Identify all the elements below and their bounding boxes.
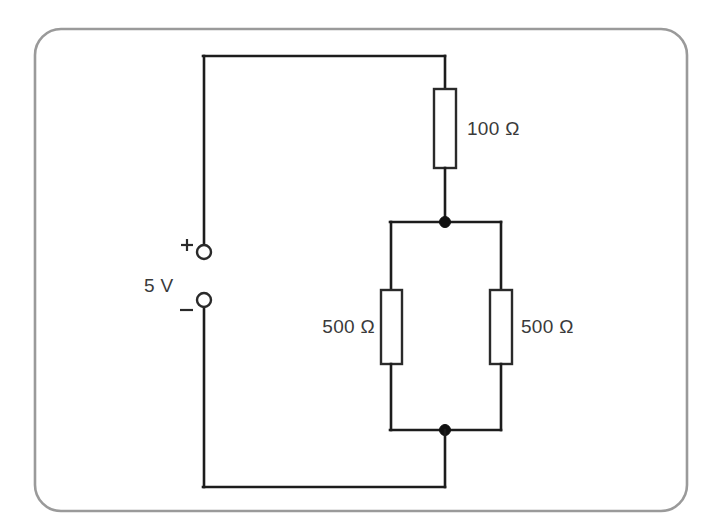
- polarity-plus-icon: [181, 239, 193, 251]
- junction-node-top: [440, 217, 451, 228]
- voltage-source-value-label: 5 V: [144, 275, 173, 296]
- resistor-500-ohm-right-label: 500 Ω: [521, 316, 574, 337]
- resistor-100-ohm-label: 100 Ω: [467, 118, 520, 139]
- resistor-500-ohm-right-body: [490, 290, 512, 364]
- resistor-500-ohm-left-label: 500 Ω: [322, 316, 375, 337]
- resistor-100-ohm-body: [434, 89, 456, 168]
- resistor-500-ohm-left-body: [381, 290, 402, 364]
- figure-frame-border: [35, 29, 687, 511]
- source-terminal-positive: [197, 245, 211, 259]
- source-terminal-negative: [197, 293, 211, 307]
- circuit-diagram-figure: 100 Ω 500 Ω 500 Ω: [0, 0, 714, 530]
- circuit-schematic-svg: 100 Ω 500 Ω 500 Ω: [0, 0, 714, 530]
